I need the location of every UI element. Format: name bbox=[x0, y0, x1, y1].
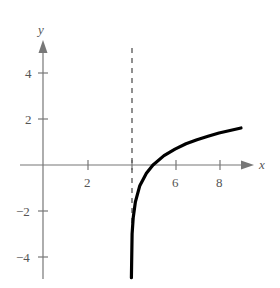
x-tick-label-2: 2 bbox=[84, 175, 91, 190]
y-tick-label-neg2: −2 bbox=[16, 204, 30, 219]
function-graph: x y 2 6 8 4 2 −2 −4 bbox=[0, 0, 280, 288]
y-axis-arrow-icon bbox=[39, 40, 48, 53]
function-curve bbox=[131, 128, 241, 278]
x-tick-label-6: 6 bbox=[172, 175, 179, 190]
y-tick-label-2: 2 bbox=[25, 112, 32, 127]
x-tick-label-8: 8 bbox=[216, 175, 223, 190]
y-tick-label-4: 4 bbox=[25, 66, 32, 81]
x-axis-label: x bbox=[258, 157, 265, 172]
y-tick-label-neg4: −4 bbox=[16, 250, 30, 265]
x-axis-arrow-icon bbox=[241, 161, 254, 170]
y-axis-label: y bbox=[36, 22, 44, 37]
